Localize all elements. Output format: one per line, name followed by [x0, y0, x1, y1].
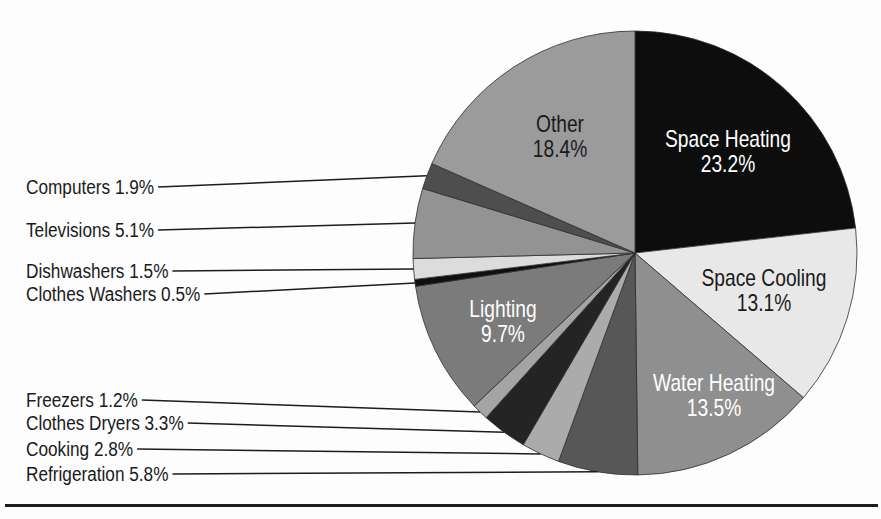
- pie-slice-space-heating: [635, 31, 856, 253]
- leader-line-computers: [158, 176, 427, 187]
- leader-line-freezers: [142, 400, 480, 412]
- pie-chart: [0, 0, 881, 519]
- bottom-rule: [5, 504, 878, 507]
- leader-line-refrigeration: [173, 472, 598, 474]
- leader-line-clothes-dryers: [188, 423, 504, 432]
- leader-line-dishwashers: [172, 269, 413, 271]
- leader-line-televisions: [158, 223, 415, 230]
- pie-figure: Space Heating23.2%Space Cooling13.1%Wate…: [0, 0, 881, 519]
- leader-line-cooking: [137, 449, 540, 454]
- leader-line-clothes-washers: [204, 283, 415, 294]
